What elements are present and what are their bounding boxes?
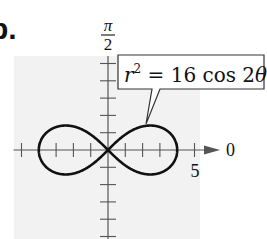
vertical-axis-label-denominator: 2	[104, 35, 113, 54]
arrow-icon	[204, 146, 220, 155]
vertical-axis-label-numerator: π	[104, 16, 113, 35]
tick-label-5: 5	[191, 161, 200, 181]
polar-axis-label: 0	[226, 140, 235, 160]
equation-label: r2 = 16 cos 2θ	[124, 62, 267, 87]
polar-graph: r2 = 16 cos 2θ π 2 0 5	[0, 0, 267, 239]
